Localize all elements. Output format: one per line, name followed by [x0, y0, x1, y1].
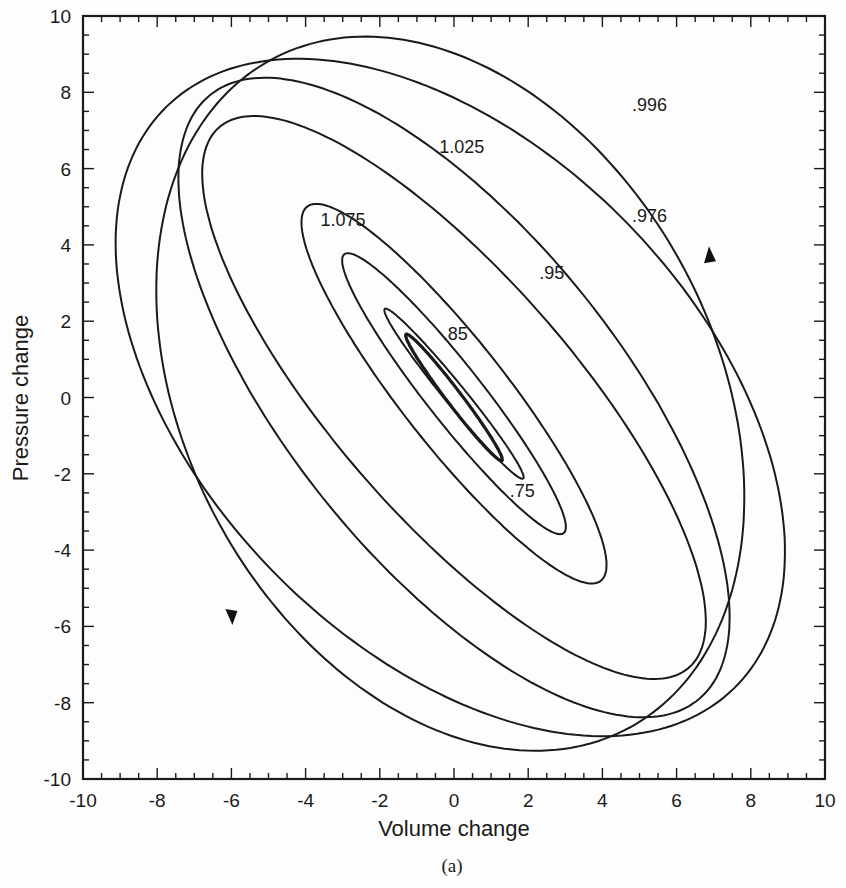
ellipse-p976: [116, 59, 785, 736]
y-axis-title: Pressure change: [8, 315, 33, 481]
y-tick-label: -2: [54, 464, 71, 485]
x-tick-label: 8: [746, 790, 757, 811]
arrow-down-icon: [225, 609, 237, 625]
x-axis-title: Volume change: [378, 816, 530, 841]
x-tick-label: -10: [69, 790, 96, 811]
figure-caption: (a): [441, 855, 462, 877]
contour-label: 1.075: [320, 210, 365, 230]
ellipse-p95: [202, 116, 706, 679]
x-tick-label: 0: [449, 790, 460, 811]
contour-label: .976: [632, 206, 667, 226]
x-tick-label: -6: [223, 790, 240, 811]
x-tick-label: 6: [671, 790, 682, 811]
x-tick-label: -4: [297, 790, 314, 811]
x-tick-label: -8: [149, 790, 166, 811]
contour-label: .996: [632, 95, 667, 115]
y-tick-label: -6: [54, 616, 71, 637]
y-tick-label: 8: [60, 82, 71, 103]
ellipse-1p025: [178, 78, 729, 718]
x-tick-label: 2: [523, 790, 534, 811]
y-tick-label: 4: [60, 235, 71, 256]
direction-arrows: [225, 246, 716, 625]
y-tick-label: 2: [60, 311, 71, 332]
contour-label: .75: [510, 481, 535, 501]
y-tick-label: 0: [60, 388, 71, 409]
plot-border: [83, 16, 825, 779]
x-tick-label: 4: [597, 790, 608, 811]
y-tick-label: 6: [60, 159, 71, 180]
phase-plot-chart: -10-8-6-4-20246810-10-8-6-4-20246810 .99…: [0, 0, 846, 888]
y-tick-label: -4: [54, 540, 71, 561]
contour-label: .95: [539, 263, 564, 283]
plot-frame: [83, 16, 825, 779]
y-tick-label: -10: [44, 769, 71, 790]
y-tick-label: -8: [54, 693, 71, 714]
contour-label: .85: [443, 324, 468, 344]
arrow-up-icon: [704, 246, 716, 263]
x-tick-label: -2: [371, 790, 388, 811]
y-tick-label: 10: [50, 6, 71, 27]
x-tick-label: 10: [814, 790, 835, 811]
contour-label: 1.025: [439, 137, 484, 157]
axis-ticks: -10-8-6-4-20246810-10-8-6-4-20246810: [44, 6, 836, 811]
